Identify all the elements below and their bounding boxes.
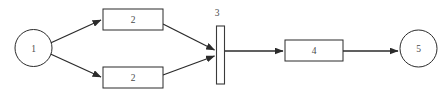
node-2-top[interactable]: 2 (103, 9, 163, 30)
node-2-top-label: 2 (131, 15, 136, 25)
node-3-bar[interactable] (217, 26, 225, 84)
diagram-canvas: 1 2 2 3 4 5 (0, 0, 447, 94)
node-4-label: 4 (312, 46, 317, 56)
node-2-bottom-label: 2 (131, 73, 136, 83)
edge-node2-top-to-node3 (163, 24, 215, 50)
node-5[interactable]: 5 (400, 30, 437, 67)
edge-node1-to-node2-bottom (51, 54, 102, 77)
node-3-label: 3 (215, 8, 220, 18)
node-2-bottom[interactable]: 2 (103, 67, 163, 88)
flow-network-diagram: 1 2 2 3 4 5 (0, 0, 447, 94)
edge-node2-bottom-to-node3 (163, 56, 215, 75)
node-1[interactable]: 1 (15, 30, 52, 67)
node-4[interactable]: 4 (285, 40, 343, 61)
node-5-label: 5 (416, 44, 421, 54)
edge-node1-to-node2-top (51, 20, 102, 43)
node-3[interactable]: 3 (215, 8, 225, 84)
node-1-label: 1 (31, 44, 36, 54)
